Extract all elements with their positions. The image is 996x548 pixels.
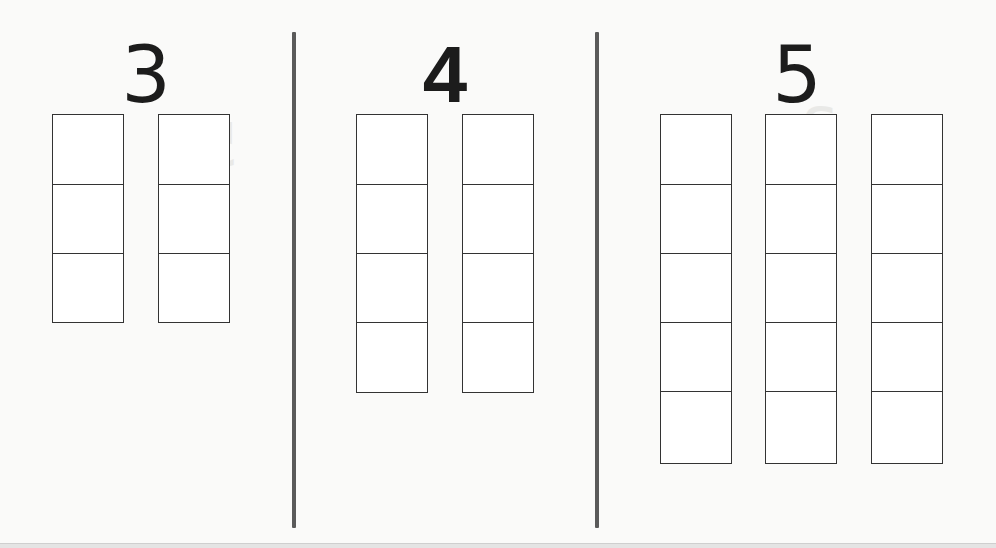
ten-frame-column <box>765 114 837 464</box>
counting-cell[interactable] <box>872 391 942 460</box>
counting-cell[interactable] <box>159 253 229 322</box>
counting-cell[interactable] <box>661 253 731 322</box>
counting-cell[interactable] <box>357 253 427 322</box>
counting-cell[interactable] <box>463 253 533 322</box>
counting-cell[interactable] <box>159 115 229 184</box>
section-divider <box>595 32 599 528</box>
ten-frame-column <box>660 114 732 464</box>
ten-frame-column <box>158 114 230 323</box>
counting-cell[interactable] <box>661 391 731 460</box>
counting-cell[interactable] <box>766 322 836 391</box>
counting-cell[interactable] <box>357 322 427 391</box>
section-numeral-5: 5 <box>737 30 857 120</box>
counting-cell[interactable] <box>766 184 836 253</box>
counting-cell[interactable] <box>872 322 942 391</box>
counting-cell[interactable] <box>872 253 942 322</box>
counting-cell[interactable] <box>872 115 942 184</box>
ten-frame-column <box>52 114 124 323</box>
section-numeral-4: 4 <box>385 30 505 120</box>
section-numeral-3: 3 <box>86 30 206 120</box>
counting-cell[interactable] <box>463 184 533 253</box>
counting-cell[interactable] <box>357 115 427 184</box>
counting-cell[interactable] <box>463 115 533 184</box>
counting-cell[interactable] <box>872 184 942 253</box>
ten-frame-column <box>871 114 943 464</box>
counting-cell[interactable] <box>357 184 427 253</box>
counting-cell[interactable] <box>766 115 836 184</box>
ten-frame-column <box>356 114 428 393</box>
counting-cell[interactable] <box>53 253 123 322</box>
ten-frame-column <box>462 114 534 393</box>
counting-cell[interactable] <box>159 184 229 253</box>
counting-cell[interactable] <box>661 322 731 391</box>
counting-cell[interactable] <box>53 184 123 253</box>
counting-cell[interactable] <box>661 115 731 184</box>
counting-cell[interactable] <box>661 184 731 253</box>
page-bottom-edge <box>0 543 996 548</box>
counting-cell[interactable] <box>766 391 836 460</box>
counting-cell[interactable] <box>463 322 533 391</box>
counting-cell[interactable] <box>766 253 836 322</box>
section-divider <box>292 32 296 528</box>
counting-cell[interactable] <box>53 115 123 184</box>
